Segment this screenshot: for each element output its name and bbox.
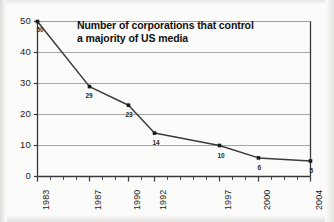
- value-label-2004: 5: [310, 167, 314, 174]
- x-tick-label-1983: 1983: [41, 189, 51, 209]
- x-tick-label-2000: 2000: [262, 189, 272, 209]
- y-tick-label-30: 30: [9, 77, 31, 88]
- value-label-1992: 14: [153, 139, 160, 146]
- x-tick-label-1997: 1997: [223, 189, 233, 209]
- value-label-1997: 10: [218, 152, 225, 159]
- value-label-1987: 29: [86, 92, 93, 99]
- y-tick-label-50: 50: [9, 15, 31, 26]
- chart-title-line-1: Number of corporations that control: [77, 19, 257, 32]
- plot-frame: [38, 22, 311, 177]
- y-tick-label-10: 10: [9, 139, 31, 150]
- y-tick-label-40: 40: [9, 46, 31, 57]
- value-label-2000: 6: [258, 164, 262, 171]
- x-tick-label-1992: 1992: [158, 189, 168, 209]
- y-tick-label-20: 20: [9, 108, 31, 119]
- y-tick-label-0: 0: [9, 170, 31, 181]
- x-tick-label-1990: 1990: [132, 189, 142, 209]
- x-tick-label-2004: 2004: [314, 189, 324, 209]
- value-label-1990: 23: [126, 111, 133, 118]
- value-label-1983: 50: [37, 26, 44, 33]
- x-tick-label-1987: 1987: [93, 189, 103, 209]
- chart-title: Number of corporations that control a ma…: [77, 19, 257, 44]
- chart-title-line-2: a majority of US media: [77, 32, 257, 45]
- x-axis-minor-ticks: [38, 177, 311, 182]
